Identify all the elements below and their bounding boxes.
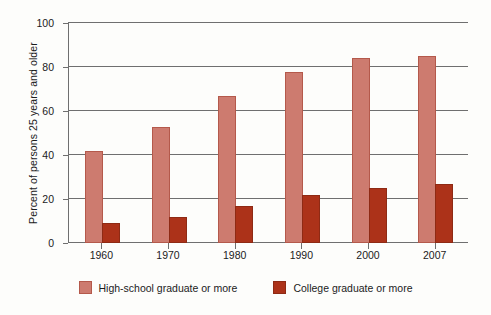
x-tick-label-1980: 1980: [205, 249, 265, 261]
bar-group-1990: [285, 23, 318, 243]
y-tick-80: 80: [63, 67, 68, 68]
gridline-0: 0: [68, 242, 468, 243]
gridline-60: 60: [68, 110, 468, 111]
bar-2007-series-1: [435, 184, 453, 243]
y-tick-20: 20: [63, 199, 68, 200]
bar-group-1970: [152, 23, 185, 243]
bar-1970-series-1: [169, 217, 187, 243]
bar-1960-series-1: [102, 223, 120, 243]
legend-item-1: College graduate or more: [273, 281, 412, 294]
y-tick-0: 0: [63, 243, 68, 244]
gridline-20: 20: [68, 198, 468, 199]
bar-1990-series-0: [285, 72, 303, 243]
gridline-40: 40: [68, 154, 468, 155]
y-tick-label-20: 20: [42, 193, 54, 205]
y-tick-label-60: 60: [42, 105, 54, 117]
x-tick-label-1970: 1970: [138, 249, 198, 261]
legend-label-1: College graduate or more: [293, 282, 412, 294]
bar-1960-series-0: [85, 151, 103, 243]
bar-2007-series-0: [418, 56, 436, 243]
y-tick-60: 60: [63, 111, 68, 112]
bar-1970-series-0: [152, 127, 170, 243]
x-axis: 196019701980199020002007: [68, 249, 468, 265]
y-tick-100: 100: [63, 23, 68, 24]
y-tick-label-40: 40: [42, 149, 54, 161]
bar-2000-series-1: [369, 188, 387, 243]
x-tick-label-2007: 2007: [405, 249, 465, 261]
y-axis-spine: [68, 23, 69, 243]
gridline-80: 80: [68, 66, 468, 67]
bar-chart-figure: Percent of persons 25 years and older 02…: [0, 0, 491, 315]
x-tick-label-1990: 1990: [271, 249, 331, 261]
legend-swatch-icon-1: [273, 281, 286, 294]
bar-group-1980: [218, 23, 251, 243]
gridline-100: 100: [68, 22, 468, 23]
y-tick-label-0: 0: [48, 237, 54, 249]
x-tick-label-1960: 1960: [71, 249, 131, 261]
bar-1980-series-0: [218, 96, 236, 243]
plot-area: 020406080100: [68, 23, 468, 243]
y-tick-label-80: 80: [42, 61, 54, 73]
bar-group-2007: [418, 23, 451, 243]
bar-group-1960: [85, 23, 118, 243]
x-tick-label-2000: 2000: [338, 249, 398, 261]
y-axis-title: Percent of persons 25 years and older: [26, 23, 40, 243]
bar-1990-series-1: [302, 195, 320, 243]
bar-2000-series-0: [352, 58, 370, 243]
y-tick-label-100: 100: [36, 17, 54, 29]
bar-group-2000: [352, 23, 385, 243]
y-tick-40: 40: [63, 155, 68, 156]
legend-item-0: High-school graduate or more: [79, 281, 238, 294]
bar-1980-series-1: [235, 206, 253, 243]
legend-label-0: High-school graduate or more: [99, 282, 238, 294]
chart-legend: High-school graduate or moreCollege grad…: [0, 281, 491, 294]
legend-swatch-icon-0: [79, 281, 92, 294]
